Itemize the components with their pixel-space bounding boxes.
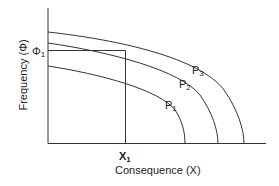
phi1-label: Φ1 [32,45,46,59]
risk-curve-diagram: Frequency (Φ) Φ1 X1 Consequence (X) P1 P… [0,0,279,186]
curve-p3 [48,32,244,144]
p1-label: P1 [165,99,177,113]
y-axis-label: Frequency (Φ) [17,39,29,110]
p2-label: P2 [179,78,191,92]
curve-p2 [48,43,218,144]
p3-label: P3 [192,64,204,78]
x1-label: X1 [119,150,131,164]
x-axis-label: Consequence (X) [115,164,201,176]
